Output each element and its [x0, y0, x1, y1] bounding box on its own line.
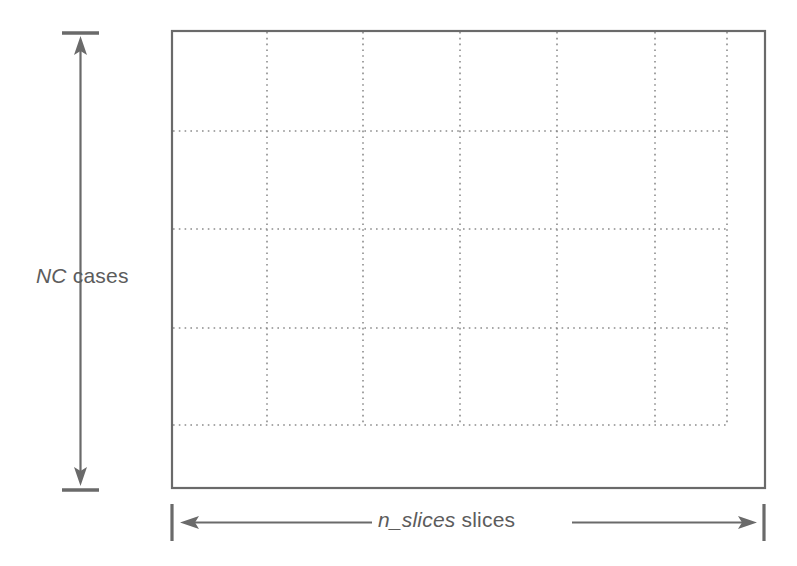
x-axis-label-unit: slices: [455, 508, 515, 531]
y-axis-label-variable: NC: [36, 264, 67, 287]
x-axis-label: n_slices slices: [378, 508, 515, 532]
y-axis-label: NC cases: [36, 264, 129, 288]
x-axis-label-variable: n_slices: [378, 508, 455, 531]
y-axis-dimension: [62, 33, 99, 490]
outer-volume-box: [172, 31, 765, 488]
diagram-canvas: NC cases n_slices slices: [0, 0, 797, 566]
y-axis-label-unit: cases: [67, 264, 129, 287]
